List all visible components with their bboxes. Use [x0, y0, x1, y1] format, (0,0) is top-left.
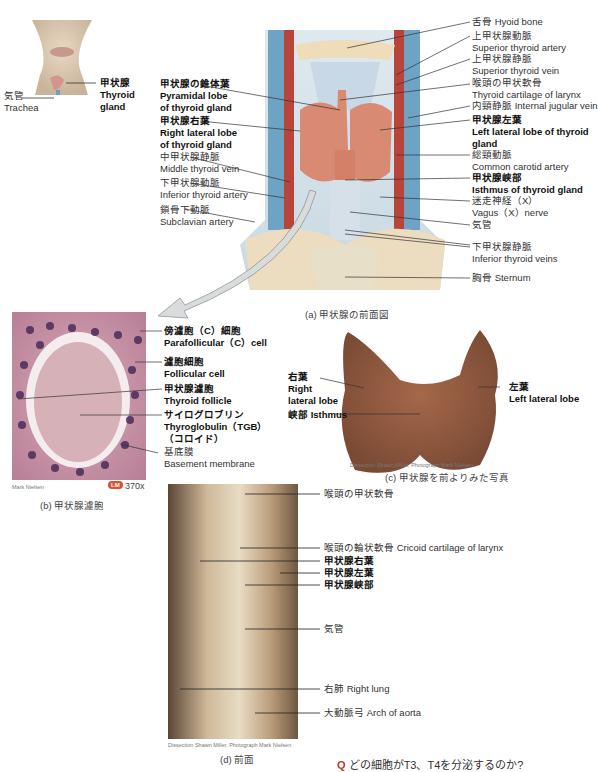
question-text: どの細胞がT3、T4を分泌するのか?	[349, 759, 524, 771]
label-left-lateral-lobe: 甲状腺左葉Left lateral lobe of thyroidgland	[472, 114, 589, 150]
credit-panel-c: Dissection Shawn Miller, Photograph Mark…	[350, 462, 473, 468]
label-d-cricoid-cartilage: 喉頭の輪状軟骨 Cricoid cartilage of larynx	[324, 542, 503, 554]
label-internal-jugular-vein: 内頸静脈 Internal jugular vein	[472, 100, 598, 112]
label-d-thyroid-cartilage: 喉頭の甲状軟骨	[324, 488, 394, 500]
thyroid-anterior-illustration	[240, 30, 445, 290]
label-vagus-nerve: 迷走神経（X）Vagus（X）nerve	[472, 195, 548, 219]
label-pyramidal-lobe: 甲状腺の錐体葉 Pyramidal lobe of thyroid gland	[160, 78, 232, 114]
label-superior-thyroid-artery: 上甲状腺動脈Superior thyroid artery	[472, 30, 566, 54]
credit-panel-d: Dissection Shawn Miller, Photograph Mark…	[168, 742, 291, 748]
label-thyroid-follicle: 甲状腺濾胞Thyroid follicle	[164, 383, 232, 407]
label-d-right-lobe: 甲状腺右葉	[324, 555, 374, 567]
label-thyroid-inset: 甲状腺 Thyroid gland	[100, 77, 135, 113]
label-d-aortic-arch: 大動脈弓 Arch of aorta	[324, 707, 421, 719]
caption-panel-b: (b) 甲状腺濾胞	[40, 498, 104, 512]
label-sternum: 胸骨 Sternum	[472, 272, 531, 284]
caption-panel-a: (a) 甲状腺の前面図	[305, 307, 389, 321]
caption-panel-d: (d) 前面	[220, 752, 254, 766]
label-superior-thyroid-vein: 上甲状腺静脈Superior thyroid vein	[472, 53, 559, 77]
label-d-left-lobe: 甲状腺左葉	[324, 567, 374, 579]
label-common-carotid-artery: 総頸動脈Common carotid artery	[472, 149, 569, 173]
label-trachea-inset: 気管 Trachea	[4, 90, 39, 114]
thyroid-follicle-micrograph	[12, 312, 146, 480]
label-d-right-lung: 右肺 Right lung	[324, 683, 389, 695]
label-isthmus: 甲状腺峡部Isthmus of thyroid gland	[472, 172, 583, 196]
label-thyroid-cartilage: 喉頭の甲状軟骨Thyroid cartilage of larynx	[472, 77, 581, 101]
magnification: 370x	[125, 481, 145, 491]
label-right-lobe-photo: 右葉Rightlateral lobe	[288, 371, 338, 407]
review-question: Q どの細胞がT3、T4を分泌するのか?	[337, 756, 523, 772]
inset-head-figure	[32, 20, 92, 95]
label-left-lobe-photo: 左葉Left lateral lobe	[509, 381, 579, 405]
label-parafollicular-cell: 傍濾胞（C）細胞Parafollicular（C）cell	[164, 325, 267, 349]
label-inferior-thyroid-artery: 下甲状腺動脈 Inferior thyroid artery	[160, 177, 248, 201]
label-basement-membrane: 基底膜Basement membrane	[164, 446, 255, 470]
neck-dissection-photo	[168, 484, 298, 739]
label-isthmus-photo: 峡部 Isthmus	[288, 409, 347, 421]
label-middle-thyroid-vein: 中甲状腺静脈 Middle thyroid vein	[160, 151, 239, 175]
label-hyoid-bone: 舌骨 Hyoid bone	[472, 16, 543, 28]
label-right-lateral-lobe: 甲状腺右葉 Right lateral lobe of thyroid glan…	[160, 115, 237, 151]
label-trachea-a: 気管	[472, 219, 492, 231]
label-inferior-thyroid-veins: 下甲状腺静脈Inferior thyroid veins	[472, 241, 558, 265]
label-follicular-cell: 濾胞細胞Follicular cell	[164, 356, 225, 380]
caption-panel-c: (c) 甲状腺を前よりみた写真	[385, 470, 509, 484]
label-d-isthmus: 甲状腺峡部	[324, 579, 374, 591]
thyroid-gland-photo	[342, 330, 498, 473]
label-d-trachea: 気管	[324, 623, 344, 635]
lm-badge: LM	[108, 481, 123, 489]
question-mark: Q	[337, 759, 346, 771]
label-subclavian-artery: 鎖骨下動脈 Subclavian artery	[160, 204, 233, 228]
label-thyroglobulin: サイログロブリンThyroglobulin（TGB）（コロイド）	[164, 409, 267, 445]
credit-panel-b: Mark Nielsen	[12, 484, 44, 490]
